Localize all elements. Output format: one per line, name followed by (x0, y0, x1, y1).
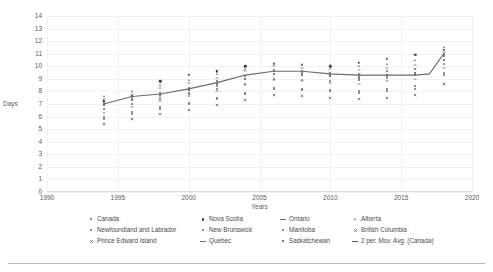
y-tick-label: 4 (38, 138, 42, 145)
x-tick-label: 1995 (111, 195, 125, 202)
legend-label: 2 per. Mov. Avg. (Canada) (361, 238, 434, 244)
y-tick-label: 5 (38, 126, 42, 133)
x-tick-label: 2000 (181, 195, 195, 202)
legend-item[interactable]: Ontario (280, 216, 352, 222)
y-tick-label: 10 (35, 63, 42, 70)
x-tick-label: 2010 (323, 195, 337, 202)
legend-label: Canada (97, 216, 119, 222)
legend-label: Nova Scotia (209, 216, 243, 222)
y-tick-label: 7 (38, 101, 42, 108)
y-tick-label: 3 (38, 151, 42, 158)
scatter-chart: 01234567891011121314 1990199520002005201… (0, 0, 493, 208)
legend-marker-dash-icon (280, 216, 286, 222)
legend-marker-x-icon (352, 227, 358, 233)
y-tick-label: 12 (35, 38, 42, 45)
footer-divider (8, 263, 485, 264)
legend-label: Ontario (289, 216, 310, 222)
legend-marker-x-icon (88, 238, 94, 244)
legend-label: Quebec (209, 238, 231, 244)
plot-area: 01234567891011121314 1990199520002005201… (47, 16, 472, 192)
y-tick-label: 13 (35, 25, 42, 32)
y-tick-label: 9 (38, 76, 42, 83)
legend-label: Newfoundland and Labrador (97, 227, 176, 233)
legend-item[interactable]: Manitoba (280, 227, 352, 233)
x-tick-label: 2020 (465, 195, 479, 202)
x-tick-label: 1990 (40, 195, 54, 202)
y-tick-label: 8 (38, 88, 42, 95)
legend-marker-dot-icon (88, 227, 94, 233)
legend-marker-dot-icon (88, 216, 94, 222)
legend-marker-square-icon (280, 238, 286, 244)
y-tick-label: 11 (35, 50, 42, 57)
x-axis-label: Years (251, 204, 267, 211)
gridline (472, 16, 473, 192)
legend-marker-dash-icon (200, 238, 206, 244)
legend-item[interactable]: British Columbia (352, 227, 448, 233)
y-tick-label: 6 (38, 113, 42, 120)
y-tick-label: 1 (38, 176, 42, 183)
legend-marker-line-icon (352, 238, 358, 244)
x-tick-label: 2015 (394, 195, 408, 202)
legend-item[interactable]: Saskatchewan (280, 238, 352, 244)
legend-marker-dot-filled-icon (200, 216, 206, 222)
legend-marker-dot-icon (200, 227, 206, 233)
legend-label: Manitoba (289, 227, 315, 233)
legend-item[interactable]: Canada (88, 216, 200, 222)
x-tick-label: 2005 (252, 195, 266, 202)
y-tick-label: 2 (38, 164, 42, 171)
legend-item[interactable]: Quebec (200, 238, 280, 244)
legend-item[interactable]: 2 per. Mov. Avg. (Canada) (352, 238, 448, 244)
legend-marker-dot-icon (280, 227, 286, 233)
legend-item[interactable]: Prince Edward Island (88, 238, 200, 244)
legend-marker-triangle-icon (352, 216, 358, 222)
legend-label: British Columbia (361, 227, 407, 233)
legend-label: Saskatchewan (289, 238, 330, 244)
trend-line (47, 16, 472, 192)
gridline (47, 192, 472, 193)
legend-item[interactable]: Alberta (352, 216, 448, 222)
legend-item[interactable]: New Brunswick (200, 227, 280, 233)
chart-page: 01234567891011121314 1990199520002005201… (0, 0, 493, 272)
legend-label: Alberta (361, 216, 381, 222)
legend-item[interactable]: Nova Scotia (200, 216, 280, 222)
y-tick-label: 14 (35, 13, 42, 20)
legend-label: New Brunswick (209, 227, 252, 233)
legend-item[interactable]: Newfoundland and Labrador (88, 227, 200, 233)
y-axis-label: Days (3, 101, 18, 108)
legend-label: Prince Edward Island (97, 238, 157, 244)
chart-legend: CanadaNova ScotiaOntarioAlbertaNewfoundl… (88, 214, 418, 247)
